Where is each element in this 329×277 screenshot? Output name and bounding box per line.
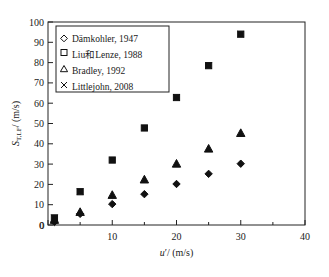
data-point <box>172 159 180 167</box>
y-tick-label: 80 <box>34 57 44 68</box>
legend-label: Bradley, 1992 <box>72 66 125 76</box>
data-point <box>205 170 212 177</box>
y-tick-label: 60 <box>34 98 44 109</box>
data-point <box>204 144 212 152</box>
data-point <box>237 129 245 137</box>
y-tick-label: 30 <box>34 159 44 170</box>
x-tick-label: 20 <box>172 231 182 242</box>
y-axis-title: ST,LF/ (m/s) <box>10 101 23 146</box>
x-axis-title: u′/ (m/s) <box>160 247 194 259</box>
y-tick-label: 100 <box>29 17 44 28</box>
square-open-icon <box>61 50 67 56</box>
data-point <box>76 208 84 216</box>
figure-container: 0 10 20 30 40 50 60 70 80 90 100 <box>0 0 329 277</box>
data-point <box>141 125 147 131</box>
scatter-chart: 0 10 20 30 40 50 60 70 80 90 100 <box>0 0 329 277</box>
x-axis-ticks <box>48 220 305 225</box>
data-point <box>173 180 180 187</box>
y-tick-label: 10 <box>34 199 44 210</box>
y-axis-tick-labels: 0 10 20 30 40 50 60 70 80 90 100 <box>29 17 44 231</box>
data-point <box>109 200 116 207</box>
y-tick-label: 90 <box>34 37 44 48</box>
x-tick-label: 10 <box>107 231 117 242</box>
data-point <box>237 160 244 167</box>
data-point <box>109 157 115 163</box>
y-tick-label: 20 <box>34 179 44 190</box>
y-tick-label: 50 <box>34 118 44 129</box>
y-axis-ticks <box>48 22 53 225</box>
svg-text:ST,LF/ (m/s): ST,LF/ (m/s) <box>10 101 23 146</box>
series-2 <box>50 129 245 224</box>
y-tick-label: 40 <box>34 138 44 149</box>
data-point <box>108 191 116 199</box>
legend-label: Liu和Lenze, 1988 <box>72 50 142 60</box>
x-tick-label: 40 <box>300 231 310 242</box>
legend-label: Dämkohler, 1947 <box>72 34 138 44</box>
x-tick-label: 0 <box>40 220 45 231</box>
legend: Dämkohler, 1947 Liu和Lenze, 1988 Bradley,… <box>56 26 169 92</box>
data-point <box>141 190 148 197</box>
bottom-caption <box>0 266 329 277</box>
y-tick-label: 70 <box>34 77 44 88</box>
x-tick-label: 30 <box>236 231 246 242</box>
data-point <box>140 175 148 183</box>
svg-text:u′/ (m/s): u′/ (m/s) <box>160 247 194 259</box>
legend-label: Littlejohn, 2008 <box>72 82 133 92</box>
